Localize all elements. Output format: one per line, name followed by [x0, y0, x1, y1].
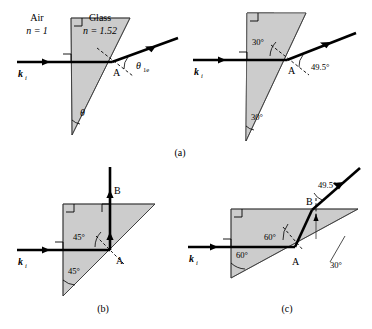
label-k-sub-a: i — [25, 74, 27, 81]
angle-arc-exit-c — [314, 193, 322, 200]
label-k-ar: k — [194, 66, 199, 77]
leader-surface-angle-c — [330, 236, 345, 262]
label-glass: Glass — [89, 12, 111, 23]
label-apex-angle-ar: 30° — [251, 112, 264, 122]
label-point-b-c: B — [306, 196, 313, 207]
reflected-ray-arrowhead-upper-b — [106, 190, 113, 198]
label-internal-angle-c: 60° — [264, 232, 277, 242]
label-point-a-c: A — [292, 256, 300, 267]
label-k-c: k — [189, 253, 194, 264]
panel-b: k i A B 45° 45° (b) — [17, 167, 155, 315]
label-point-a-b: A — [116, 255, 124, 266]
label-index-glass: n = 1.52 — [83, 25, 117, 36]
label-incident-ray-b: k i — [18, 256, 27, 269]
label-theta-exit: θ — [136, 60, 141, 71]
label-point-a: A — [113, 67, 121, 78]
label-apex-angle-a: θ — [80, 107, 85, 118]
label-k-sub-b: i — [25, 262, 27, 269]
panel-c: k i A B 60° 60° 30° 49.5° (c) — [188, 168, 360, 315]
label-point-b-b: B — [114, 185, 121, 196]
label-air: Air — [30, 12, 44, 23]
label-theta-exit-sub: 1e — [143, 66, 149, 73]
label-apex-angle-c: 60° — [236, 250, 249, 260]
label-internal-angle-b: 45° — [73, 232, 86, 242]
incident-ray-arrowhead-c — [210, 243, 218, 250]
incident-ray-arrowhead — [42, 58, 50, 65]
panel-a-right: k i A 30° 30° 49.5° — [193, 13, 356, 141]
exit-ray-ar — [287, 33, 356, 60]
panel-a-left: Air n = 1 Glass n = 1.52 k i A θ 1e θ — [17, 12, 178, 135]
label-incident-ray-c: k i — [189, 253, 198, 266]
label-exit-angle-c: 49.5° — [318, 180, 337, 190]
label-incident-ray-ar: k i — [194, 66, 203, 79]
exit-ray-a — [112, 38, 178, 62]
label-k-sub-c: i — [196, 259, 198, 266]
label-exit-angle-ar: 49.5° — [311, 62, 330, 72]
incident-ray-arrowhead-ar — [218, 56, 226, 63]
label-k-b: k — [18, 256, 23, 267]
label-exit-angle-a: θ 1e — [136, 60, 149, 73]
optics-figure: Air n = 1 Glass n = 1.52 k i A θ 1e θ — [0, 0, 372, 329]
incident-ray-arrowhead-b — [42, 246, 50, 253]
caption-b: (b) — [97, 303, 109, 315]
label-apex-angle-b: 45° — [68, 266, 81, 276]
label-k-a: k — [18, 68, 23, 79]
label-point-a-ar: A — [288, 65, 296, 76]
caption-c: (c) — [281, 303, 292, 315]
caption-a: (a) — [174, 147, 185, 159]
label-k-sub-ar: i — [201, 72, 203, 79]
label-internal-angle-ar: 30° — [252, 37, 265, 47]
angle-arc-exit-ar — [299, 55, 303, 67]
label-incident-ray-a: k i — [18, 68, 27, 81]
label-index-air: n = 1 — [26, 25, 48, 36]
figure-svg: Air n = 1 Glass n = 1.52 k i A θ 1e θ — [0, 0, 372, 329]
label-surface-angle-c: 30° — [330, 260, 343, 270]
